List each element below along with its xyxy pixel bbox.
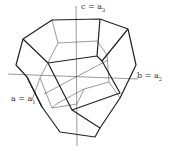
c-axis-label: c = a3 [81,3,105,13]
b-axis-label: b = a2 [137,72,162,82]
c-axis [76,6,77,146]
a-axis-label: a = a1 [11,95,36,105]
front-edges [23,19,128,128]
a-axis [44,60,108,94]
